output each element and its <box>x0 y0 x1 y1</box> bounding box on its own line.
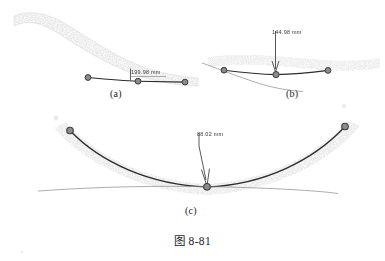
panel-c-node-vertex <box>204 184 211 191</box>
panel-c-node-right <box>342 123 349 130</box>
panel-label-a: (a) <box>110 88 122 99</box>
panel-b-band <box>208 55 380 71</box>
figure-root: 199.98 mm 144.98 mm 88.02 mm (a) (b) (c)… <box>0 0 385 261</box>
panel-c-dim-leader-2 <box>199 146 206 180</box>
panel-b-node-right <box>325 68 331 74</box>
figure-canvas <box>0 0 385 261</box>
panel-a <box>14 13 198 86</box>
panel-a-dimension-label: 199.98 mm <box>131 69 161 75</box>
panel-label-b: (b) <box>286 88 298 99</box>
panel-c-node-left <box>67 127 74 134</box>
panel-b-node-left <box>221 67 227 73</box>
panel-label-c: (c) <box>185 205 197 216</box>
panel-a-node-left <box>85 75 91 81</box>
figure-caption: 图 8-81 <box>0 232 385 248</box>
panel-b-dimension-label: 144.98 mm <box>272 29 302 35</box>
panel-a-node-mid <box>135 78 141 84</box>
panel-a-node-right <box>182 79 188 85</box>
panel-a-band <box>14 13 198 86</box>
panel-b <box>202 31 380 92</box>
panel-c-dimension-label: 88.02 mm <box>197 131 223 137</box>
panel-b-node-mid <box>273 72 279 78</box>
